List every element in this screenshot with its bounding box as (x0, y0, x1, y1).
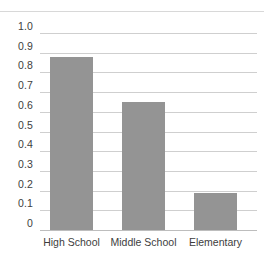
bar-high-school (50, 57, 93, 230)
bar-middle-school (122, 102, 165, 230)
plot-area: 1.00.90.80.70.60.50.40.30.20.10 (0, 20, 264, 235)
bar-group (0, 20, 264, 235)
x-axis-tick-label: Elementary (171, 236, 261, 249)
bar-chart-screenshot: 1.00.90.80.70.60.50.40.30.20.10 High Sch… (0, 0, 264, 258)
bar-elementary (194, 193, 237, 230)
top-divider-rule (0, 11, 264, 12)
x-axis-tick-label-group: High SchoolMiddle SchoolElementary (0, 236, 264, 254)
